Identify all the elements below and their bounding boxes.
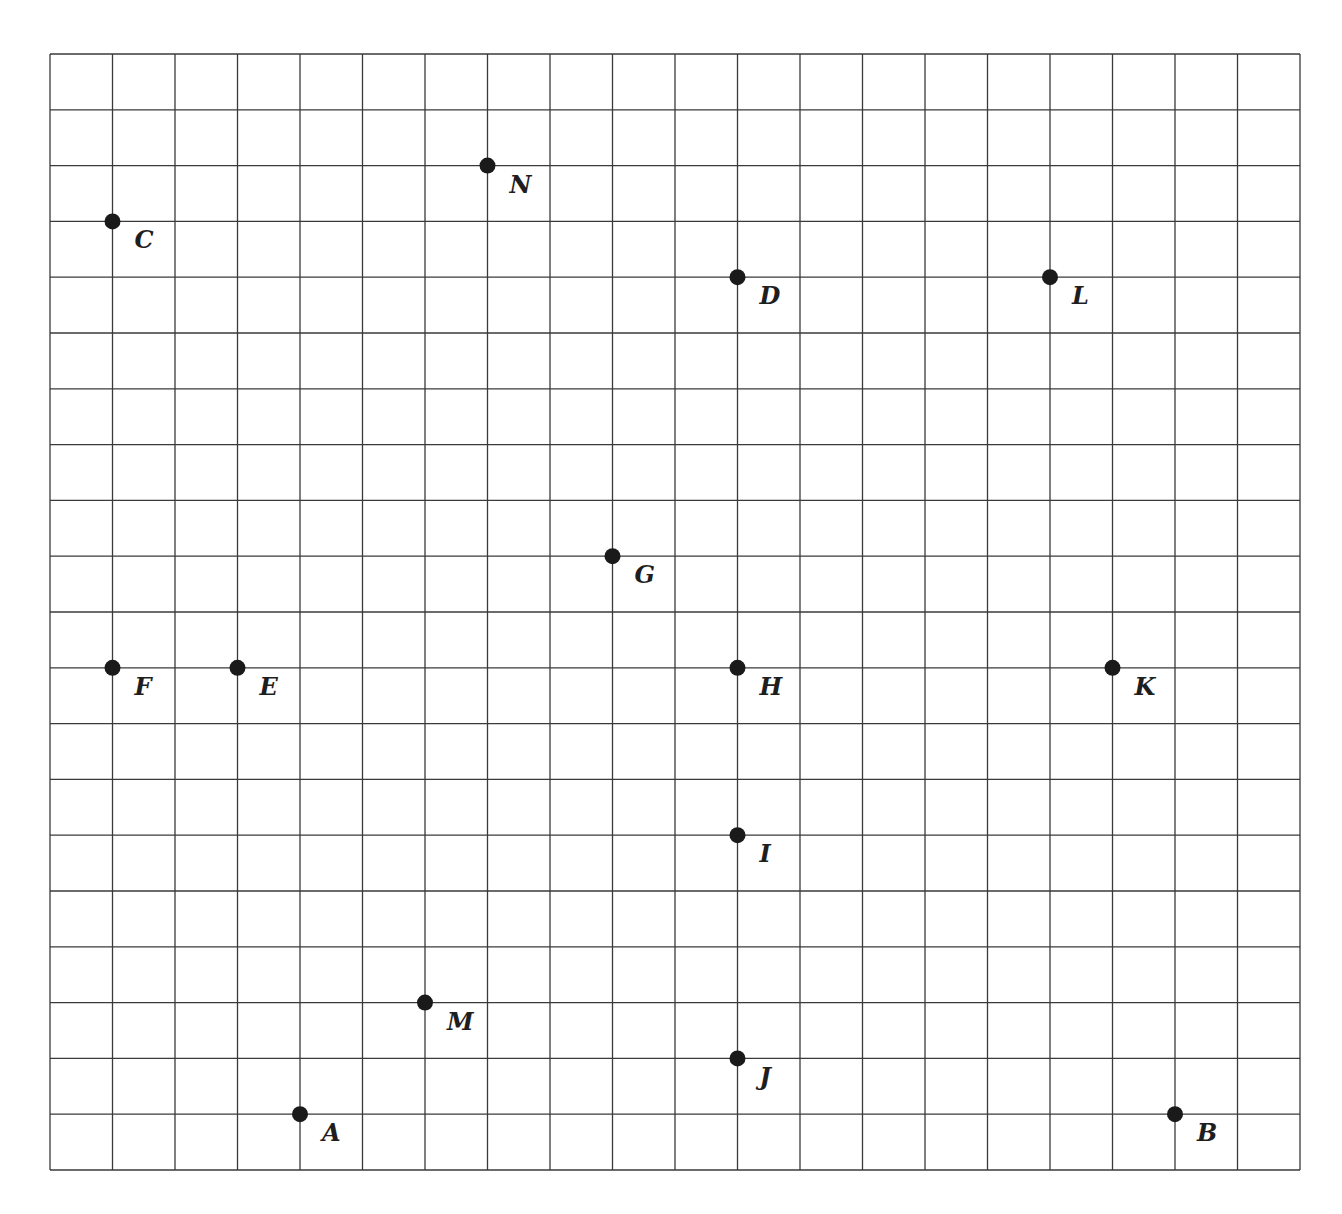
point-dot (1042, 269, 1058, 285)
point-a: A (292, 1106, 341, 1147)
point-dot (105, 213, 121, 229)
point-dot (1105, 660, 1121, 676)
point-label: M (446, 1007, 475, 1036)
point-label: L (1071, 281, 1089, 310)
point-label: J (756, 1062, 773, 1091)
point-dot (105, 660, 121, 676)
point-label: I (759, 839, 772, 868)
point-label: G (635, 560, 656, 589)
point-i: I (730, 827, 772, 868)
point-label: H (759, 672, 784, 701)
point-label: F (134, 672, 154, 701)
point-dot (480, 158, 496, 174)
point-dot (730, 1050, 746, 1066)
point-label: N (509, 170, 533, 199)
point-m: M (417, 995, 475, 1036)
point-dot (292, 1106, 308, 1122)
point-dot (1167, 1106, 1183, 1122)
point-dot (605, 548, 621, 564)
point-dot (230, 660, 246, 676)
grid-lines (50, 54, 1300, 1170)
point-dot (730, 269, 746, 285)
point-dot (417, 995, 433, 1011)
point-label: D (759, 281, 781, 310)
point-label: B (1196, 1118, 1217, 1147)
point-label: E (259, 672, 279, 701)
point-dot (730, 660, 746, 676)
point-j: J (730, 1050, 773, 1091)
point-dot (730, 827, 746, 843)
point-l: L (1042, 269, 1089, 310)
point-label: K (1134, 672, 1157, 701)
point-label: C (135, 225, 154, 254)
coordinate-grid-figure: CNDLGFEHKIMJAB (0, 0, 1342, 1214)
point-label: A (320, 1118, 341, 1147)
